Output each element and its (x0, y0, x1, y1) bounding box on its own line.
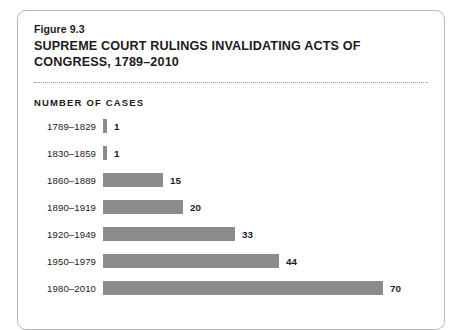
bar-track: 1 (103, 119, 430, 133)
bar (103, 281, 383, 295)
bar-value-label: 1 (107, 148, 119, 159)
category-label: 1980–2010 (34, 283, 103, 294)
bar-value-label: 1 (107, 121, 119, 132)
bar (103, 254, 279, 268)
figure-title: SUPREME COURT RULINGS INVALIDATING ACTS … (34, 39, 384, 70)
bar-value-label: 33 (235, 229, 253, 240)
bar (103, 227, 235, 241)
bar-value-label: 20 (183, 202, 201, 213)
bar-track: 20 (103, 200, 430, 214)
bar (103, 200, 183, 214)
chart-row: 1860–188915 (34, 173, 430, 187)
chart-row: 1890–191920 (34, 200, 430, 214)
figure-number: Figure 9.3 (34, 23, 430, 36)
bar (103, 173, 163, 187)
category-label: 1789–1829 (34, 121, 103, 132)
bar-value-label: 44 (279, 256, 297, 267)
bar-value-label: 15 (163, 175, 181, 186)
chart-row: 1920–194933 (34, 227, 430, 241)
chart-row: 1980–201070 (34, 281, 430, 295)
bar-track: 44 (103, 254, 430, 268)
bar-track: 70 (103, 281, 430, 295)
chart-row: 1830–18591 (34, 146, 430, 160)
bar-track: 15 (103, 173, 430, 187)
chart-row: 1950–197944 (34, 254, 430, 268)
axis-caption: NUMBER OF CASES (34, 97, 430, 108)
category-label: 1890–1919 (34, 202, 103, 213)
bar-track: 33 (103, 227, 430, 241)
chart-row: 1789–18291 (34, 119, 430, 133)
figure-content: Figure 9.3 SUPREME COURT RULINGS INVALID… (34, 23, 430, 308)
category-label: 1830–1859 (34, 148, 103, 159)
bar-chart: 1789–182911830–185911860–1889151890–1919… (34, 119, 430, 295)
category-label: 1860–1889 (34, 175, 103, 186)
bar-track: 1 (103, 146, 430, 160)
bar-value-label: 70 (383, 283, 401, 294)
category-label: 1950–1979 (34, 256, 103, 267)
category-label: 1920–1949 (34, 229, 103, 240)
title-divider (34, 82, 428, 83)
figure-card: Figure 9.3 SUPREME COURT RULINGS INVALID… (17, 10, 445, 330)
